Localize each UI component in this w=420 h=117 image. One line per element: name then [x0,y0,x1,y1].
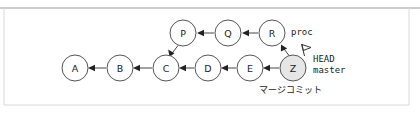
edge-q-to-p [197,30,214,36]
head-flag-icon [302,44,312,56]
node-p-label: P [180,28,186,39]
node-r[interactable]: R [259,20,285,46]
node-e[interactable]: E [237,55,263,81]
node-e-label: E [247,63,253,74]
node-d-label: D [204,63,211,74]
node-z[interactable]: Z [280,55,306,81]
master-branch-label: master [313,65,346,75]
node-z-label: Z [290,63,297,74]
node-c[interactable]: C [153,55,179,81]
head-label: HEAD [313,54,335,64]
node-b-label: B [117,63,124,74]
node-d[interactable]: D [195,55,221,81]
node-p[interactable]: P [170,20,196,46]
edge-c-to-b [133,65,152,71]
edge-r-to-q [242,30,258,36]
edge-b-to-a [88,65,106,71]
node-b[interactable]: B [107,55,133,81]
edge-e-to-d [221,65,236,71]
graph-nodes: A B C D E Z P [62,20,306,81]
edge-z-to-r [281,45,289,56]
node-a-label: A [72,63,79,74]
edge-z-to-e [263,65,279,71]
node-c-label: C [163,63,170,74]
edge-d-to-c [179,65,194,71]
merge-commit-caption: マージコミット [259,85,322,95]
node-q[interactable]: Q [215,20,241,46]
node-a[interactable]: A [62,55,88,81]
node-r-label: R [269,28,276,39]
figure-frame: A B C D E Z P [0,0,420,117]
commit-graph-diagram: A B C D E Z P [0,0,420,117]
branch-label-proc: proc [291,27,313,37]
node-q-label: Q [224,28,231,39]
